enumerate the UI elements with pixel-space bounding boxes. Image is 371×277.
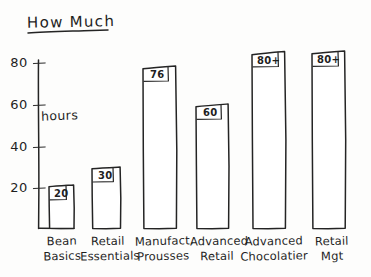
x-category-label-6-line1: Retail xyxy=(308,233,356,249)
x-category-label-3-line1: Manufact. xyxy=(135,233,191,250)
x-category-label-3-line2: Prousses xyxy=(135,248,191,265)
y-tick-label-20: 20 xyxy=(6,180,28,195)
x-category-label-3: Manufact. Prousses xyxy=(135,233,192,265)
x-category-label-5: Advanced Chocolatier xyxy=(238,233,311,265)
x-category-label-2: Retail Essentials xyxy=(80,234,137,265)
hand-drawn-bar-chart: How Much 80 60 40 20 hours 20 30 76 60 8… xyxy=(0,0,371,277)
x-category-label-5-line1: Advanced xyxy=(238,233,310,250)
x-category-label-4: Advanced Retail xyxy=(190,234,244,265)
tick-20 xyxy=(34,188,46,189)
x-category-label-2-line1: Retail xyxy=(80,234,136,250)
chart-title: How Much xyxy=(27,12,115,32)
bar-value-label-2: 30 xyxy=(98,170,113,181)
bar-value-label-3: 76 xyxy=(150,69,165,80)
x-category-label-6: Retail Mgt xyxy=(308,233,357,264)
tick-80 xyxy=(34,63,46,64)
bar-value-label-4: 60 xyxy=(203,107,218,118)
y-axis-line xyxy=(38,60,39,229)
y-tick-label-60: 60 xyxy=(6,97,28,112)
bar-value-label-6: 80+ xyxy=(317,54,340,65)
x-category-label-2-line2: Essentials xyxy=(80,249,136,265)
tick-60 xyxy=(34,105,46,106)
tick-40 xyxy=(34,147,46,148)
bar-value-label-1: 20 xyxy=(54,188,69,199)
x-category-label-4-line2: Retail xyxy=(190,249,244,265)
x-category-label-6-line2: Mgt xyxy=(308,248,356,264)
x-category-label-5-line2: Chocolatier xyxy=(238,248,310,265)
y-tick-label-40: 40 xyxy=(6,139,28,154)
x-category-label-4-line1: Advanced xyxy=(190,234,244,250)
y-tick-label-80: 80 xyxy=(6,55,28,70)
bar-value-label-5: 80+ xyxy=(257,55,280,66)
y-axis-label: hours xyxy=(41,107,79,123)
